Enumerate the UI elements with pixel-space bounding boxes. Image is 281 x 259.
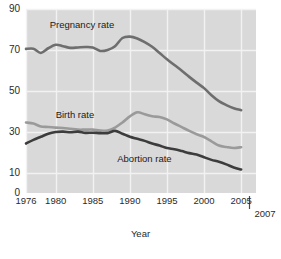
- y-tick-label: 10: [0, 168, 20, 178]
- x-axis-title: Year: [0, 228, 281, 239]
- plot-canvas: [0, 0, 281, 259]
- y-tick-label: 90: [0, 4, 20, 14]
- x-tick-label: 2005: [226, 196, 256, 206]
- x-tick-label: 1980: [41, 196, 71, 206]
- y-tick-label: 30: [0, 127, 20, 137]
- series-line-pregnancy-rate: [26, 37, 241, 111]
- x-tick-label: 2007: [250, 209, 280, 219]
- y-tick-label: 70: [0, 45, 20, 55]
- x-tick-label: 1990: [115, 196, 145, 206]
- x-tick-label: 1985: [78, 196, 108, 206]
- y-tick-label: 50: [0, 86, 20, 96]
- x-tick-label: 1976: [11, 196, 41, 206]
- series-label-abortion-rate: Abortion rate: [117, 154, 171, 164]
- series-label-pregnancy-rate: Pregnancy rate: [50, 20, 114, 30]
- x-tick-label: 2000: [189, 196, 219, 206]
- series-label-birth-rate: Birth rate: [56, 110, 95, 120]
- x-tick-label: 1995: [152, 196, 182, 206]
- chart-figure: 01030507090 1976198019851990199520002005…: [0, 0, 281, 259]
- gridlines: [26, 9, 256, 193]
